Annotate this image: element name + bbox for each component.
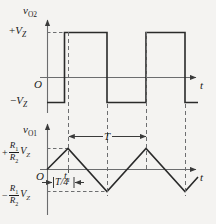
alignment-dashed-lines xyxy=(69,32,186,196)
bottom-x-axis-label: t xyxy=(200,172,203,183)
waveform-svg xyxy=(0,0,216,224)
bottom-y-axis-label: vO1 xyxy=(23,124,37,138)
bottom-origin-label: O xyxy=(36,171,44,182)
top-negative-level-label: −VZ xyxy=(10,95,27,109)
top-positive-level-label: +VZ xyxy=(9,25,26,39)
top-origin-label: O xyxy=(34,79,42,90)
bottom-negative-level-label: −R1R2VZ xyxy=(2,184,30,207)
waveform-figure: vO2 +VZ O −VZ t vO1 +R1R2VZ O t1 T/4 T −… xyxy=(0,0,216,224)
top-y-axis-label: vO2 xyxy=(23,5,37,19)
quarter-period-label: T/4 xyxy=(55,177,68,187)
top-x-axis-label: t xyxy=(200,80,203,91)
square-wave-trace xyxy=(47,33,198,103)
period-label: T xyxy=(104,131,110,142)
bottom-positive-level-label: +R1R2VZ xyxy=(2,141,30,164)
